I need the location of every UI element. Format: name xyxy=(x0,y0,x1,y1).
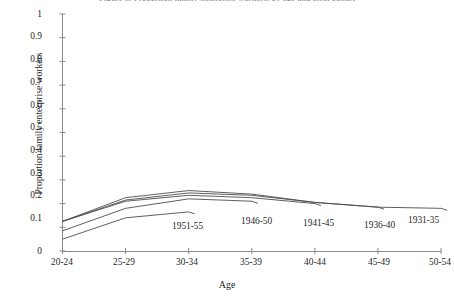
plot-area xyxy=(0,0,454,304)
series-line-1951-55 xyxy=(63,212,189,239)
leader-line-1946-50 xyxy=(252,201,258,203)
series-label-1946-50: 1946-50 xyxy=(241,216,272,226)
series-label-1931-35: 1931-35 xyxy=(408,215,439,225)
series-label-1941-45: 1941-45 xyxy=(303,218,334,228)
series-label-1936-40: 1936-40 xyxy=(364,220,395,230)
leader-line-1951-55 xyxy=(189,212,195,214)
leader-line-1931-35 xyxy=(441,208,447,210)
chart-figure: Figure 3. Proportion family enterprise w… xyxy=(0,0,454,304)
leader-line-1941-45 xyxy=(315,204,321,206)
series-lines xyxy=(63,191,442,240)
series-label-1951-55: 1951-55 xyxy=(172,221,203,231)
